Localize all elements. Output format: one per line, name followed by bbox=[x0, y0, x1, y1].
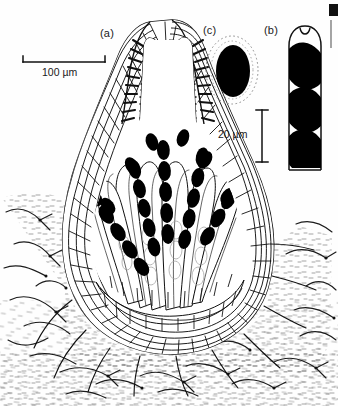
page-edge-artifact bbox=[329, 4, 338, 48]
scale-label-20um: 20 µm bbox=[218, 128, 247, 140]
panel-label-a: (a) bbox=[100, 27, 114, 39]
scale-bar-20um bbox=[256, 110, 268, 162]
panel-b-ascospores bbox=[277, 36, 332, 181]
panel-b-ascus bbox=[277, 26, 332, 181]
panel-label-b: (b) bbox=[264, 24, 278, 36]
scale-bar-100um bbox=[23, 56, 105, 62]
figure-plate: (a) (c) (b) 100 µm 20 µm bbox=[0, 0, 338, 406]
scale-label-100um: 100 µm bbox=[42, 66, 77, 78]
panel-label-c: (c) bbox=[203, 24, 216, 36]
drawing-layer bbox=[0, 0, 338, 406]
